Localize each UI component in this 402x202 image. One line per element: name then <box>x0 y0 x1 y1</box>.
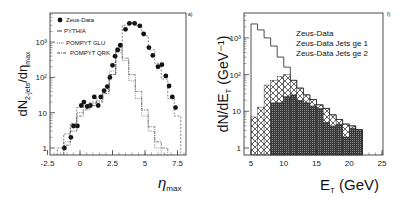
left-panel-tag: a) <box>188 11 193 17</box>
legend-label: Zeus-Data Jets ge 2 <box>296 49 369 58</box>
right-y-axis-label: dN/dET (GeV⁻¹) <box>215 36 233 133</box>
y-tick-label: 10² <box>229 71 241 80</box>
data-point <box>102 88 107 93</box>
legend-label: Zeus-Data <box>296 29 334 38</box>
histogram-bar-jets-ge-1 <box>251 117 258 155</box>
x-tick-label: 0 <box>78 159 83 168</box>
histogram-bar-jets-ge-2 <box>323 122 330 155</box>
right-legend: Zeus-Data Zeus-Data Jets ge 1 Zeus-Data … <box>296 29 369 58</box>
x-tick-label: 15 <box>312 159 321 168</box>
legend-label: Zeus-Data Jets ge 1 <box>296 39 369 48</box>
y-tick-label: 10 <box>38 109 47 118</box>
y-tick-label: 10² <box>35 73 47 82</box>
histogram-bar-jets-ge-2 <box>284 97 291 155</box>
data-point <box>69 135 74 140</box>
left-panel: 11010²10³ -2.502.557.5 a) dN2-jets/dηmax… <box>15 11 193 193</box>
x-tick-label: 2.5 <box>107 159 119 168</box>
mc-curve-pompyt-qrk <box>64 48 168 155</box>
svg-text:dN2-jets/dηmax: dN2-jets/dηmax <box>15 51 32 117</box>
left-y-axis-label: dN2-jets/dηmax <box>15 51 32 117</box>
histogram-bar-jets-ge-2 <box>303 103 310 155</box>
x-tick-label: 25 <box>378 159 387 168</box>
data-point <box>110 63 115 68</box>
histogram-bar-jets-ge-2 <box>290 95 297 155</box>
x-tick-label: -2.5 <box>41 159 55 168</box>
data-point <box>75 124 80 129</box>
y-tick-label: 1 <box>237 144 242 153</box>
figure: 11010²10³ -2.502.557.5 a) dN2-jets/dηmax… <box>0 0 402 202</box>
legend-label: Zeus-Data <box>66 17 95 23</box>
histogram-bar-jets-ge-2 <box>317 108 324 155</box>
histogram-bar-jets-ge-2 <box>297 100 304 155</box>
legend-label: PYTHIA <box>64 28 86 34</box>
right-panel-tag: f) <box>387 11 390 17</box>
histogram-bar-jets-ge-2 <box>277 103 284 155</box>
data-point <box>167 84 172 89</box>
histogram-bar-jets-ge-2 <box>271 103 278 155</box>
x-tick-label: 5 <box>143 159 148 168</box>
x-tick-label: 20 <box>345 159 354 168</box>
histogram-bar-jets-ge-2 <box>356 130 363 155</box>
histogram-bar-jets-ge-2 <box>336 124 343 155</box>
histogram-bar-jets-ge-2 <box>349 128 356 155</box>
legend-label: POMPYT GLU <box>66 40 105 46</box>
y-tick-label: 10 <box>232 107 241 116</box>
right-panel: 11010²10³ 510152025 f) dN/dET (GeV⁻¹) ET… <box>215 11 390 195</box>
data-point <box>173 105 178 110</box>
y-tick-label: 1 <box>43 144 48 153</box>
svg-text:dN/dET (GeV⁻¹): dN/dET (GeV⁻¹) <box>215 36 233 133</box>
x-tick-label: 5 <box>249 159 254 168</box>
histogram-bar-jets-ge-2 <box>310 106 317 155</box>
data-point <box>123 27 128 32</box>
histogram-bar-jets-ge-2 <box>343 137 350 155</box>
histogram-bar-jets-ge-2 <box>330 126 337 155</box>
left-x-axis-label: ηmax <box>158 174 181 193</box>
data-point <box>147 45 152 50</box>
x-tick-label: 10 <box>279 159 288 168</box>
legend-label: POMPYT QRK <box>70 50 110 56</box>
legend-marker-data <box>58 18 63 23</box>
histogram-bar-jets-ge-1 <box>264 85 271 155</box>
data-point <box>160 62 165 67</box>
left-legend: Zeus-Data PYTHIA POMPYT GLU POMPYT QRK <box>57 17 110 56</box>
data-point <box>82 100 87 105</box>
mc-curve-pompyt-glu <box>64 53 162 155</box>
data-point <box>113 54 118 59</box>
histogram-bar-jets-ge-1 <box>258 107 265 155</box>
y-tick-label: 10³ <box>229 34 241 43</box>
x-tick-label: 7.5 <box>172 159 184 168</box>
right-x-axis-label: ET (GeV) <box>320 176 379 195</box>
y-tick-label: 10³ <box>35 38 47 47</box>
data-point <box>108 75 113 80</box>
data-point <box>163 74 168 79</box>
